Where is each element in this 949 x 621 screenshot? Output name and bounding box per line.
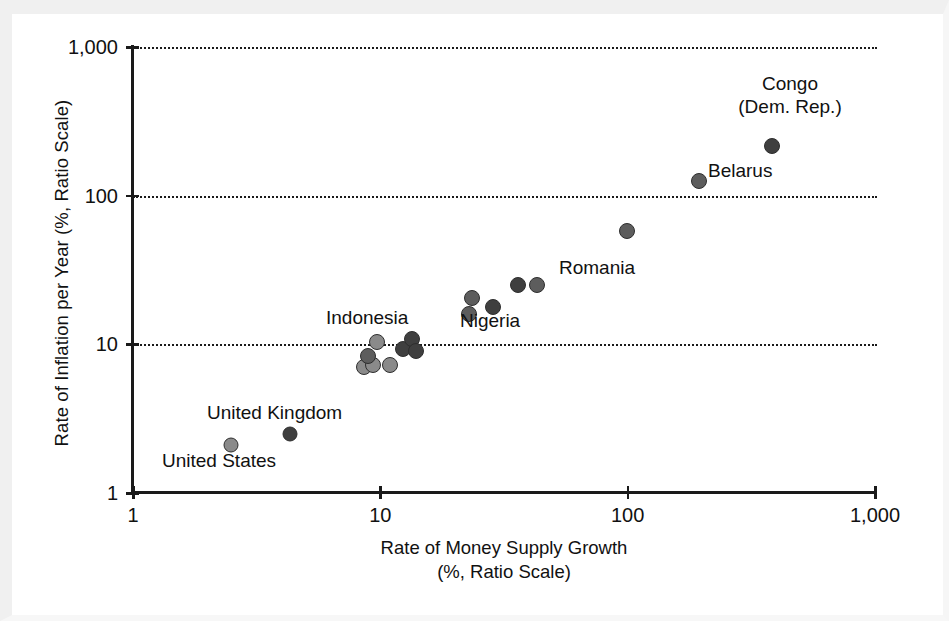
data-point-belarus (691, 173, 707, 189)
data-point-united-kingdom (282, 426, 297, 441)
annotation-congo-line2: (Dem. Rep.) (700, 96, 880, 119)
x-tick-1 (132, 486, 135, 499)
annotation-romania: Romania (559, 257, 635, 280)
x-tick-100 (627, 486, 630, 499)
y-tick-label-1000: 1,000 (68, 36, 118, 59)
gridline-1000 (133, 47, 877, 49)
y-tick-10 (126, 343, 139, 346)
y-axis-title: Rate of Inflation per Year (%, Ratio Sca… (51, 63, 73, 483)
annotation-united-kingdom: United Kingdom (207, 402, 342, 425)
annotation-congo-line1: Congo (700, 73, 880, 96)
annotation-indonesia: Indonesia (326, 307, 408, 330)
x-tick-label-1000: 1,000 (850, 504, 900, 527)
data-point-romania (529, 277, 545, 293)
scatter-chart-figure: Rate of Inflation per Year (%, Ratio Sca… (0, 0, 949, 621)
data-point-9 (408, 343, 424, 359)
y-tick-label-100: 100 (85, 184, 118, 207)
scan-artifact (390, 118, 395, 133)
annotation-belarus: Belarus (708, 160, 772, 183)
x-axis-title: Rate of Money Supply Growth (%, Ratio Sc… (133, 536, 875, 585)
y-tick-label-10: 10 (96, 333, 118, 356)
data-point-6 (369, 334, 385, 350)
x-tick-10 (379, 486, 382, 499)
gridline-10 (133, 344, 877, 346)
gridline-100 (133, 196, 877, 198)
data-point-congo-dem-rep (764, 138, 780, 154)
y-axis-line (131, 45, 134, 495)
y-tick-1000 (126, 46, 139, 49)
data-point-11 (464, 290, 480, 306)
x-tick-label-10: 10 (369, 504, 391, 527)
y-tick-label-1: 1 (107, 482, 118, 505)
data-point-15 (619, 223, 635, 239)
x-tick-1000 (874, 486, 877, 499)
data-point-5 (360, 348, 376, 364)
y-tick-100 (126, 195, 139, 198)
x-axis-title-line1: Rate of Money Supply Growth (133, 536, 875, 560)
x-axis-title-line2: (%, Ratio Scale) (133, 560, 875, 584)
annotation-congo: Congo (Dem. Rep.) (700, 73, 880, 119)
x-tick-label-1: 1 (127, 504, 138, 527)
annotation-nigeria: Nigeria (460, 310, 520, 333)
x-axis-line (131, 491, 877, 494)
x-tick-label-100: 100 (611, 504, 644, 527)
data-point-4 (382, 357, 398, 373)
data-point-13 (510, 277, 526, 293)
annotation-united-states: United States (162, 450, 276, 473)
